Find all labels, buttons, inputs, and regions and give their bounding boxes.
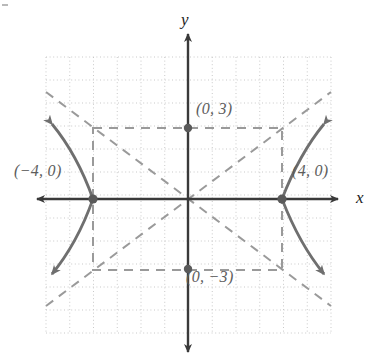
point-4-0 [277,194,286,203]
point-neg4-0 [88,194,97,203]
label-point-neg4-0: (−4, 0) [14,162,62,180]
hyperbola-figure: (0, 3) (0, −3) (−4, 0) (4, 0) x y [0,0,379,358]
axis-lines [37,34,338,352]
x-axis-label: x [356,188,364,208]
y-axis-label: y [181,10,189,30]
point-0-3 [184,124,192,132]
label-point-4-0: (4, 0) [292,162,328,180]
label-point-0-3: (0, 3) [196,100,232,118]
label-point-0-neg3: (0, −3) [186,268,234,286]
